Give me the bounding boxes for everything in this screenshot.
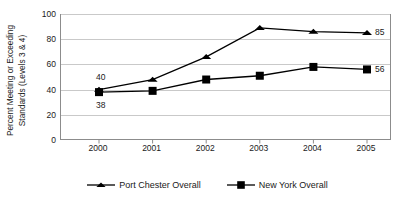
plot-series-layer xyxy=(61,14,391,140)
x-axis-tick-label: 2003 xyxy=(249,143,268,153)
y-axis-tick-label: 60 xyxy=(30,60,56,69)
x-axis-tick-label: 2000 xyxy=(89,143,108,153)
y-axis-tick-label: 40 xyxy=(30,85,56,94)
y-axis-tick-labels: 020406080100 xyxy=(30,14,56,140)
y-axis-tick-label: 80 xyxy=(30,35,56,44)
line-chart: Percent Meeting or Exceeding Standards (… xyxy=(0,0,415,202)
x-axis-tick-labels: 200020012002200320042005 xyxy=(60,143,390,157)
legend-item-label: New York Overall xyxy=(259,180,328,191)
y-axis-tick-label: 0 xyxy=(30,136,56,145)
legend-item[interactable]: Port Chester Overall xyxy=(87,179,201,191)
triangle-marker-icon xyxy=(87,179,115,191)
chart-legend: Port Chester OverallNew York Overall xyxy=(0,174,415,196)
plot-area xyxy=(60,14,390,140)
square-marker-icon xyxy=(202,76,210,84)
data-point-label: 85 xyxy=(375,28,384,37)
square-marker-icon xyxy=(227,179,255,191)
square-marker-icon xyxy=(309,63,317,71)
x-axis-tick-label: 2005 xyxy=(357,143,376,153)
square-marker-icon xyxy=(256,72,264,80)
series-line xyxy=(99,28,367,90)
square-marker-icon xyxy=(363,65,371,73)
square-marker-icon xyxy=(95,88,103,96)
x-axis-tick-label: 2004 xyxy=(303,143,322,153)
series-line xyxy=(99,67,367,92)
data-point-label: 40 xyxy=(96,73,105,82)
data-point-label: 56 xyxy=(375,65,384,74)
data-point-label: 38 xyxy=(96,101,105,110)
plot-frame-right-edge xyxy=(390,14,391,140)
y-axis-tick-label: 100 xyxy=(30,10,56,19)
legend-item[interactable]: New York Overall xyxy=(227,179,328,191)
y-axis-title-line-1: Percent Meeting or Exceeding xyxy=(6,24,18,135)
x-axis-tick-label: 2002 xyxy=(196,143,215,153)
legend-item-label: Port Chester Overall xyxy=(119,180,201,191)
y-axis-title-line-2: Standards (Levels 3 & 4) xyxy=(17,24,29,135)
x-axis-tick-label: 2001 xyxy=(142,143,161,153)
y-axis-tick-label: 20 xyxy=(30,110,56,119)
square-marker-icon xyxy=(149,87,157,95)
y-axis-title: Percent Meeting or Exceeding Standards (… xyxy=(0,0,34,160)
